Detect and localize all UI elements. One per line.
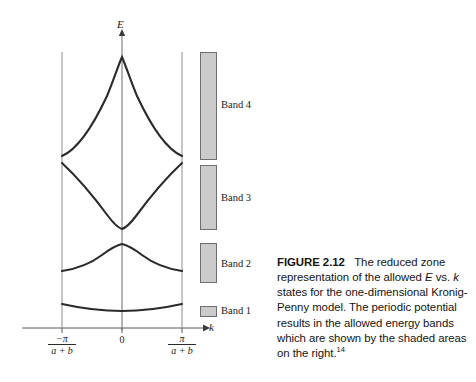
fraction-denominator: a + b: [48, 344, 76, 356]
fraction-pi-over-a-plus-b: π a + b: [168, 333, 196, 356]
figure-caption-number: FIGURE 2.12: [277, 256, 345, 268]
band-2-label: Band 2: [221, 258, 251, 269]
band-3-swatch: [200, 165, 217, 230]
tick-label-right-zone-edge: π a + b: [162, 333, 202, 356]
e-axis: [119, 29, 125, 330]
figure-caption-footnote-marker: 14: [337, 345, 345, 354]
fraction-numerator: π: [168, 333, 196, 344]
figure-caption-italic-e: E: [425, 271, 433, 283]
tick-label-origin: 0: [112, 334, 132, 345]
fraction-denominator: a + b: [168, 344, 196, 356]
figure-panel: E k −π a + b 0 π a + b Band 4 Band 3 Ban…: [0, 0, 276, 382]
band-2-swatch: [200, 243, 217, 283]
k-axis-label: k: [209, 321, 214, 333]
fraction-neg-pi-over-a-plus-b: −π a + b: [48, 333, 76, 356]
tick-label-left-zone-edge: −π a + b: [42, 333, 82, 356]
figure-caption: FIGURE 2.12 The reduced zone representat…: [277, 255, 473, 361]
band-1-label: Band 1: [221, 305, 251, 316]
e-axis-label: E: [117, 18, 124, 30]
figure-caption-text-part-2: vs.: [433, 271, 454, 283]
band-4-label: Band 4: [221, 99, 251, 110]
band-3-label: Band 3: [221, 192, 251, 203]
band-structure-plot: [0, 0, 276, 382]
figure-caption-italic-k: k: [453, 271, 459, 283]
fraction-numerator: −π: [48, 333, 76, 344]
band-1-swatch: [200, 306, 217, 317]
band-4-swatch: [200, 52, 217, 160]
figure-caption-text-part-3: states for the one-dimensional Kronig-Pe…: [277, 286, 468, 359]
